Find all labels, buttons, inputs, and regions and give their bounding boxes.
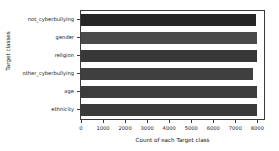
bar-ethnicity <box>81 104 257 116</box>
bar-fill <box>81 32 257 44</box>
bar-fill <box>81 14 256 26</box>
plot-area <box>80 10 265 120</box>
x-tick-mark <box>81 120 82 123</box>
x-tick-mark <box>147 120 148 123</box>
x-tick-label-7000: 7000 <box>229 125 242 131</box>
bar-chart-figure: Target classes not_cyberbullyinggenderre… <box>0 0 279 151</box>
x-tick-mark <box>213 120 214 123</box>
x-tick-label-1000: 1000 <box>96 125 109 131</box>
x-tick-label-2000: 2000 <box>118 125 131 131</box>
x-tick-label-0: 0 <box>79 125 82 131</box>
x-tick-label-5000: 5000 <box>185 125 198 131</box>
x-tick-mark <box>103 120 104 123</box>
x-tick-label-4000: 4000 <box>163 125 176 131</box>
x-tick-label-3000: 3000 <box>141 125 154 131</box>
x-tick-label-8000: 8000 <box>251 125 264 131</box>
x-tick-mark <box>191 120 192 123</box>
y-tick-label-age: age <box>64 88 74 94</box>
bar-gender <box>81 32 257 44</box>
y-axis-tick-labels: not_cyberbullyinggenderreligionother_cyb… <box>0 10 77 120</box>
bar-not_cyberbullying <box>81 14 256 26</box>
x-axis-title: Count of each Target class <box>80 137 265 143</box>
y-tick-label-not_cyberbullying: not_cyberbullying <box>28 16 74 22</box>
bar-other_cyberbullying <box>81 68 253 80</box>
y-tick-label-other_cyberbullying: other_cyberbullying <box>22 70 74 76</box>
y-tick-label-gender: gender <box>56 34 74 40</box>
x-tick-mark <box>257 120 258 123</box>
bar-religion <box>81 50 257 62</box>
x-axis-tick-labels: 010002000300040005000600070008000 <box>80 120 265 136</box>
bar-fill <box>81 86 257 98</box>
x-tick-mark <box>235 120 236 123</box>
bar-fill <box>81 50 257 62</box>
y-tick-label-religion: religion <box>55 52 74 58</box>
bar-fill <box>81 104 257 116</box>
bar-fill <box>81 68 253 80</box>
bar-age <box>81 86 257 98</box>
x-tick-label-6000: 6000 <box>207 125 220 131</box>
x-tick-mark <box>125 120 126 123</box>
y-tick-label-ethnicity: ethnicity <box>51 106 74 112</box>
x-tick-mark <box>169 120 170 123</box>
